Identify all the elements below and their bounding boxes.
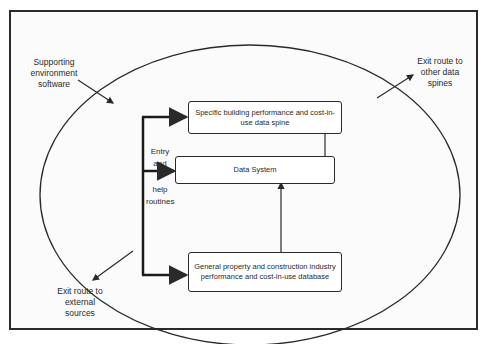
data-system-box: Data System xyxy=(175,156,335,184)
exit-spines-label: Exit route to other data spines xyxy=(415,56,465,89)
specific-data-spine-box: Specific building performance and cost-i… xyxy=(188,101,342,134)
entry-label-line2: and xyxy=(146,158,174,170)
exit-external-label: Exit route to external sources xyxy=(52,286,108,319)
supporting-env-label: Supporting environment software xyxy=(22,57,86,90)
entry-label-line3: help xyxy=(146,184,174,196)
general-database-box: General property and construction indust… xyxy=(188,252,342,292)
entry-label-line4: routines xyxy=(146,196,174,208)
entry-label-line1: Entry xyxy=(146,146,174,158)
exit-external-arrow xyxy=(93,251,133,280)
entry-help-label: Entry and help routines xyxy=(146,146,174,208)
